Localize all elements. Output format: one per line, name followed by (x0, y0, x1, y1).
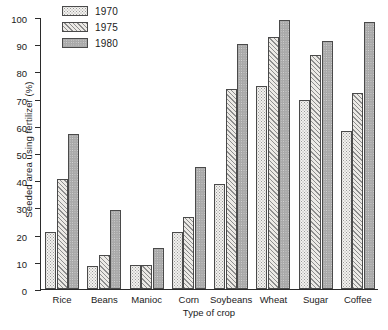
y-tick: 90 (35, 45, 41, 46)
bar-sugar-1975 (310, 55, 321, 289)
y-tick-label: 20 (16, 231, 27, 242)
bar-soybeans-1970 (214, 184, 225, 289)
x-tick-label: Rice (53, 294, 72, 305)
y-tick: 20 (35, 236, 41, 237)
y-tick-label: 10 (16, 258, 27, 269)
y-tick-label: 80 (16, 68, 27, 79)
legend-label: 1970 (95, 6, 118, 17)
bar-soybeans-1975 (226, 89, 237, 289)
bar-beans-1975 (99, 255, 110, 289)
y-tick-label: 30 (16, 204, 27, 215)
bar-sugar-1970 (299, 100, 310, 289)
bar-sugar-1980 (322, 41, 333, 289)
bar-wheat-1975 (268, 37, 279, 289)
bar-coffee-1975 (352, 93, 363, 289)
x-tick-label: Soybeans (210, 294, 252, 305)
y-tick: 70 (35, 100, 41, 101)
bar-group: Coffee (341, 18, 375, 289)
bar-chart-figure: Seeded area using fertilizer (%) 0102030… (0, 0, 388, 330)
bar-wheat-1980 (279, 20, 290, 289)
y-tick-label: 70 (16, 95, 27, 106)
bar-group: Rice (45, 18, 79, 289)
bar-rice-1980 (68, 134, 79, 289)
bar-group: Corn (172, 18, 206, 289)
bar-manioc-1980 (153, 248, 164, 289)
bar-corn-1980 (195, 167, 206, 289)
bar-corn-1975 (183, 217, 194, 289)
bar-corn-1970 (172, 232, 183, 289)
chart-legend: 197019751980 (62, 4, 118, 52)
legend-label: 1980 (95, 38, 118, 49)
legend-swatch-icon (62, 6, 88, 16)
y-tick: 80 (35, 72, 41, 73)
legend-item-1975: 1975 (62, 20, 118, 34)
bar-coffee-1980 (364, 22, 375, 289)
y-tick-label: 40 (16, 177, 27, 188)
y-tick-label: 60 (16, 122, 27, 133)
y-tick-label: 90 (16, 41, 27, 52)
bar-coffee-1970 (341, 131, 352, 289)
x-tick-label: Beans (91, 294, 118, 305)
bar-rice-1970 (45, 232, 56, 289)
x-tick-label: Coffee (344, 294, 372, 305)
legend-label: 1975 (95, 22, 118, 33)
bar-group: Sugar (299, 18, 333, 289)
x-tick-label: Manioc (131, 294, 162, 305)
y-tick: 60 (35, 127, 41, 128)
x-axis-title: Type of crop (40, 307, 378, 318)
bar-group: Beans (87, 18, 121, 289)
y-tick: 0 (35, 290, 41, 291)
bar-soybeans-1980 (237, 44, 248, 289)
plot-area: 0102030405060708090100RiceBeansManiocCor… (40, 18, 378, 290)
bar-wheat-1970 (256, 86, 267, 289)
legend-swatch-icon (62, 22, 88, 32)
y-tick-label: 100 (11, 14, 27, 25)
y-tick: 30 (35, 208, 41, 209)
legend-item-1970: 1970 (62, 4, 118, 18)
bar-group: Wheat (256, 18, 290, 289)
x-tick-label: Corn (179, 294, 200, 305)
y-tick: 50 (35, 154, 41, 155)
x-tick-label: Wheat (260, 294, 287, 305)
bar-beans-1980 (110, 210, 121, 289)
x-tick-label: Sugar (303, 294, 328, 305)
bar-rice-1975 (57, 179, 68, 289)
legend-swatch-icon (62, 38, 88, 48)
y-tick-label: 0 (22, 286, 27, 297)
y-tick: 10 (35, 263, 41, 264)
legend-item-1980: 1980 (62, 36, 118, 50)
bar-group: Soybeans (214, 18, 248, 289)
y-tick: 100 (35, 18, 41, 19)
bar-manioc-1975 (141, 265, 152, 289)
bar-beans-1970 (87, 266, 98, 289)
bar-manioc-1970 (130, 265, 141, 289)
y-tick: 40 (35, 181, 41, 182)
bar-group: Manioc (130, 18, 164, 289)
y-tick-label: 50 (16, 150, 27, 161)
